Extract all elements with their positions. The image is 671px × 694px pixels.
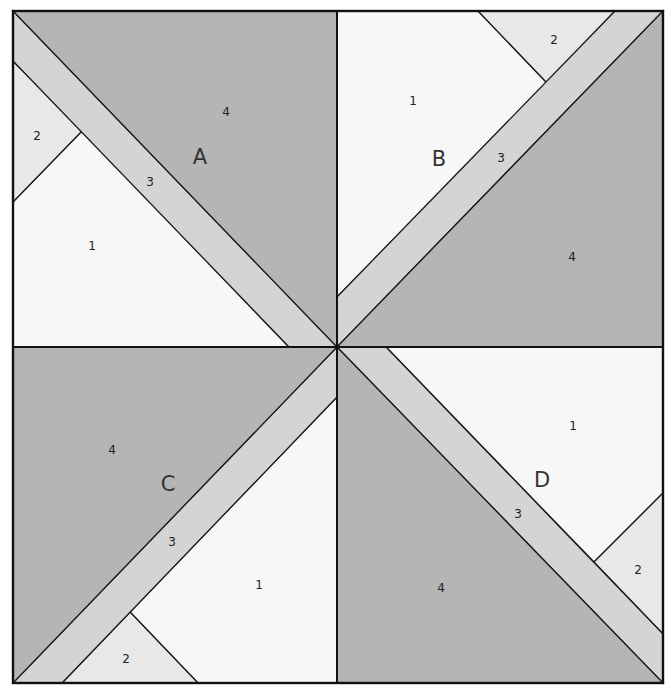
piece-number-label: 4 [437, 581, 445, 595]
piece-number-label: 3 [168, 535, 176, 549]
piece-number-label: 1 [255, 578, 263, 592]
piece-number-label: 4 [108, 443, 116, 457]
piece-number-label: 1 [569, 419, 577, 433]
block-b [337, 11, 663, 347]
piece-number-label: 3 [514, 507, 522, 521]
piece-number-label: 2 [122, 652, 130, 666]
center-point [335, 345, 340, 350]
piece-number-label: 2 [634, 563, 642, 577]
piece-number-label: 3 [146, 175, 154, 189]
block-label-a: A [193, 145, 208, 169]
piece-number-label: 2 [550, 33, 558, 47]
piece-number-label: 3 [497, 151, 505, 165]
piece-number-label: 4 [222, 105, 230, 119]
block-c [13, 347, 337, 683]
block-a [13, 11, 337, 347]
piece-number-label: 4 [568, 250, 576, 264]
block-label-d: D [534, 468, 550, 492]
piece-number-label: 1 [88, 239, 96, 253]
quilt-block-diagram: 1234A1234B1234C1234D [0, 0, 671, 694]
piece-number-label: 2 [33, 129, 41, 143]
block-d [337, 347, 663, 683]
block-label-b: B [432, 147, 446, 171]
piece-number-label: 1 [409, 94, 417, 108]
block-label-c: C [161, 472, 176, 496]
